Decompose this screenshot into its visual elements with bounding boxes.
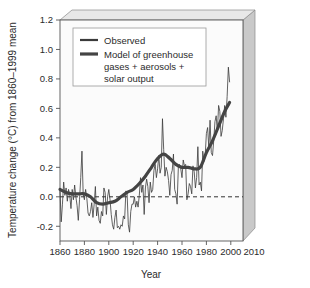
x-tick-label: 1960 [171,246,192,257]
x-tick-label: 1920 [123,246,144,257]
x-tick-label: 1980 [196,246,217,257]
y-tick-label: 1.0 [40,44,53,55]
x-tick-label: 1880 [74,246,95,257]
x-axis-title: Year [141,269,162,280]
y-tick-label: 1.2 [40,14,53,25]
x-tick-label: 1900 [98,246,119,257]
legend-label-model-line2: gases + aerosols + [104,61,185,72]
x-tick-label: 2000 [220,246,241,257]
x-tick-label: 1860 [49,246,70,257]
box-top-face [60,10,255,20]
y-tick-label: 0.4 [40,132,53,143]
x-axis-ticks: 186018801900192019401960198020002010 [49,241,264,257]
x-tick-label: 2010 [243,246,264,257]
legend-label-observed: Observed [104,35,145,46]
y-tick-label: 0.8 [40,73,53,84]
y-tick-label: 0.0 [40,191,53,202]
legend: Observed Model of greenhouse gases + aer… [73,28,206,86]
temperature-anomaly-chart: -0.20.00.20.40.60.81.01.2 18601880190019… [0,0,310,288]
y-axis-title: Temperature change (°C) from 1860–1999 m… [7,22,18,238]
y-tick-label: -0.2 [37,221,53,232]
figure-container: -0.20.00.20.40.60.81.01.2 18601880190019… [0,0,310,288]
x-tick-label: 1940 [147,246,168,257]
legend-label-model-line1: Model of greenhouse [104,49,193,60]
box-right-face [243,10,255,241]
y-axis-ticks: -0.20.00.20.40.60.81.01.2 [37,14,60,231]
y-tick-label: 0.2 [40,162,53,173]
y-tick-label: 0.6 [40,103,53,114]
legend-label-model-line3: solar output [104,73,154,84]
